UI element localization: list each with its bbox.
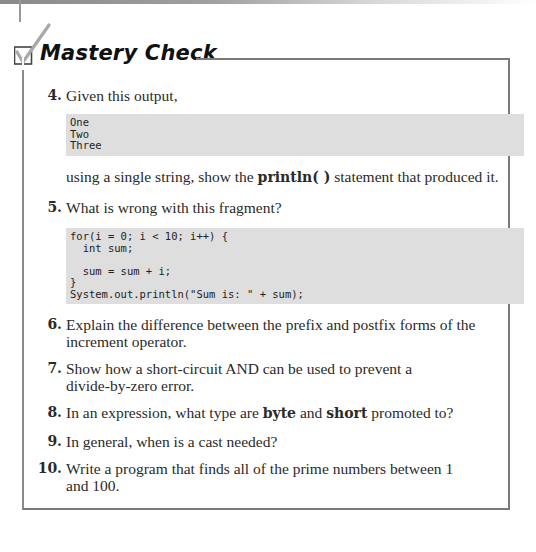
page-top-rule <box>0 0 536 4</box>
question-7: 7. Show how a short-circuit AND can be u… <box>40 360 510 394</box>
question-text: Show how a short-circuit AND can be used… <box>66 360 412 377</box>
text: statement that produced it. <box>330 168 498 185</box>
question-4: 4. Given this output, <box>40 87 510 104</box>
question-number: 8. <box>40 404 62 421</box>
question-text: and 100. <box>66 477 119 494</box>
margin-rule <box>19 0 21 22</box>
question-text: Given this output, <box>66 87 178 104</box>
keyword-byte: byte <box>263 405 296 421</box>
question-6: 6. Explain the difference between the pr… <box>40 316 510 350</box>
question-number: 5. <box>40 199 62 216</box>
question-text: divide-by-zero error. <box>66 377 194 394</box>
question-5: 5. What is wrong with this fragment? <box>40 199 510 216</box>
question-text: In general, when is a cast needed? <box>66 433 277 450</box>
code-output-block: One Two Three <box>66 114 524 156</box>
question-text: promoted to? <box>367 404 453 421</box>
question-4-continuation: using a single string, show the println(… <box>66 168 510 186</box>
question-number: 9. <box>40 433 62 450</box>
question-8: 8. In an expression, what type are byte … <box>40 404 510 422</box>
question-text: Write a program that finds all of the pr… <box>66 460 453 477</box>
question-text: What is wrong with this fragment? <box>66 199 282 216</box>
question-text: increment operator. <box>66 333 187 350</box>
question-number: 7. <box>40 360 62 377</box>
question-9: 9. In general, when is a cast needed? <box>40 433 510 450</box>
frame-gap <box>22 58 24 70</box>
question-text: and <box>296 404 326 421</box>
frame-top-border <box>196 58 508 60</box>
question-list: 4. Given this output, One Two Three usin… <box>40 87 510 494</box>
question-number: 6. <box>40 316 62 333</box>
text: using a single string, show the <box>66 168 258 185</box>
question-10: 10. Write a program that finds all of th… <box>40 460 510 494</box>
question-text: Explain the difference between the prefi… <box>66 316 475 333</box>
question-number: 10. <box>32 460 62 477</box>
code-fragment-block: for(i = 0; i < 10; i++) { int sum; sum =… <box>66 228 524 304</box>
question-text: In an expression, what type are <box>66 404 263 421</box>
keyword-short: short <box>326 405 367 421</box>
method-name: println( ) <box>258 169 331 185</box>
question-number: 4. <box>40 87 62 104</box>
